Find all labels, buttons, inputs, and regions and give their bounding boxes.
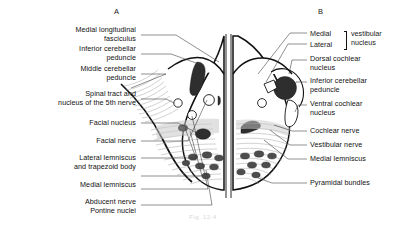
label-vestibular-nerve: Vestibular nerve: [310, 141, 362, 150]
small-dark-sliver: [218, 96, 220, 105]
label-dorsal-cochlear-nucleus: Dorsal cochlear nucleus: [310, 55, 361, 72]
label-spinal-tract-nucleus-5th-nerve: Spinal tract and nucleus of the 5th nerv…: [4, 90, 136, 107]
vestibular-nucleus-group: Medial Lateral vestibular nucleus: [310, 30, 404, 52]
label-lateral-vestibular-nucleus: Lateral: [310, 41, 332, 50]
facial-nucleus-shape: [195, 129, 210, 139]
ventral-cochlear-nucleus-shape: [285, 100, 298, 127]
label-medial-lemniscus-right: Medial lemniscus: [310, 155, 366, 164]
panel-letter-b: B: [318, 7, 323, 16]
panel-letter-a: A: [114, 7, 119, 16]
label-facial-nucleus: Facial nucleus: [4, 119, 136, 128]
label-ventral-cochlear-nucleus: Ventral cochlear nucleus: [310, 100, 362, 117]
label-medial-longitudinal-fasciculus: Medial longitudinal fasciculus: [4, 26, 136, 43]
label-medial-lemniscus-left: Medial lemniscus: [4, 181, 136, 190]
label-facial-nerve: Facial nerve: [4, 137, 136, 146]
midline-raphe: [226, 34, 231, 198]
group-bracket: [344, 31, 347, 50]
open-nucleus-b: [258, 99, 267, 108]
label-cochlear-nerve: Cochlear nerve: [310, 127, 359, 136]
label-pyramidal-bundles: Pyramidal bundles: [310, 179, 370, 188]
label-middle-cerebellar-peduncle: Middle cerebellar peduncle: [4, 65, 136, 82]
brainstem-cross-section-figure: A B Medial longitudinal fasciculus Infer…: [0, 0, 406, 226]
label-lateral-lemniscus-trapezoid-body: Lateral lemniscus and trapezoid body: [4, 154, 136, 171]
label-inferior-cerebellar-peduncle: Inferior cerebellar peduncle: [4, 45, 136, 62]
spinal-tract-5th-nucleus: [174, 99, 182, 107]
panel-b-section: [233, 36, 304, 190]
figure-caption: Fig. 12-4: [0, 214, 406, 220]
label-medial-vestibular-nucleus: Medial: [310, 30, 331, 39]
label-vestibular-nucleus: vestibular nucleus: [351, 30, 382, 47]
panel-a-section: [121, 36, 224, 190]
label-inferior-cerebellar-peduncle-b: Inferior cerebellar peduncle: [310, 77, 367, 94]
open-nucleus-lower: [188, 111, 197, 120]
